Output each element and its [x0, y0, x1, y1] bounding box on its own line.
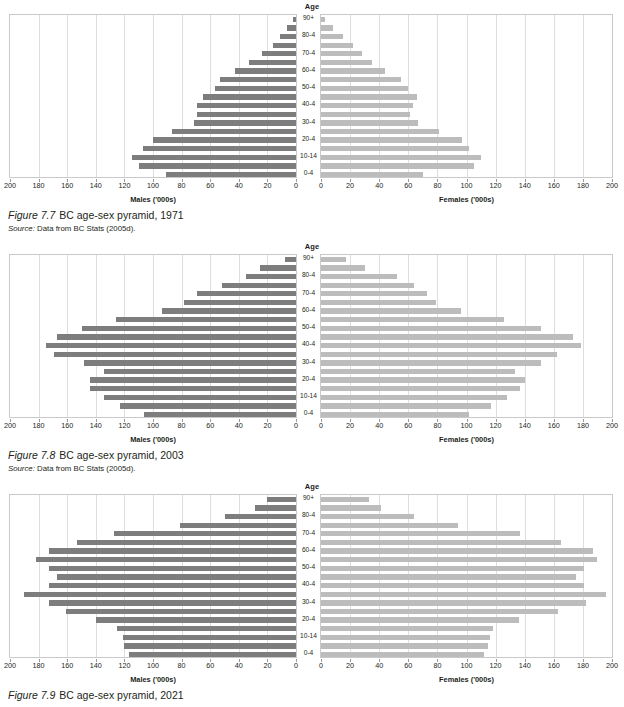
- age-group-label: 0-4: [297, 410, 320, 417]
- figures-page: Age90+80-470-460-450-440-430-420-410-140…: [0, 0, 624, 707]
- axis-tick-label: 120: [118, 422, 130, 429]
- age-group-label: 30-4: [297, 119, 320, 126]
- male-bar: [139, 163, 296, 168]
- bar-row: [321, 24, 612, 33]
- bar-row: [321, 101, 612, 110]
- bar-row: [321, 58, 612, 67]
- bar-row: [10, 75, 296, 84]
- bar-row: [321, 290, 612, 299]
- bar-row: [321, 410, 612, 418]
- figure-source-lead: Source:: [8, 224, 37, 233]
- male-axis-title: Males ('000s): [9, 195, 297, 204]
- axis-tick-label: 40: [375, 422, 383, 429]
- figure-number: Figure 7.8: [8, 449, 55, 461]
- axis-tick-label: 80: [178, 422, 186, 429]
- male-bar: [54, 352, 296, 357]
- bar-row: [10, 376, 296, 385]
- female-bar: [321, 574, 576, 579]
- bar-row: [10, 93, 296, 102]
- bar-row: [10, 633, 296, 642]
- female-bar: [321, 377, 525, 382]
- figure-caption: Figure 7.9BC age-sex pyramid, 2021: [8, 689, 508, 702]
- age-group-labels: 90+80-470-460-450-440-430-420-410-140-4: [297, 14, 320, 178]
- bar-row: [321, 624, 612, 633]
- female-panel: [320, 494, 613, 658]
- female-bar: [321, 86, 408, 91]
- axis-tick-label: 60: [206, 182, 214, 189]
- bar-row: [321, 376, 612, 385]
- female-bar: [321, 412, 469, 417]
- male-bar: [96, 617, 296, 622]
- bar-row: [321, 359, 612, 368]
- age-group-label: 20-4: [297, 616, 320, 623]
- female-axis: 020406080100120140160180200: [320, 662, 613, 674]
- axis-tick-label: 120: [118, 662, 130, 669]
- bar-row: [10, 616, 296, 625]
- male-axis: 200180160140120100806040200: [9, 662, 297, 674]
- bar-row: [10, 624, 296, 633]
- bar-row: [10, 530, 296, 539]
- female-bars: [321, 255, 612, 417]
- bar-row: [321, 581, 612, 590]
- male-bar: [82, 326, 297, 331]
- bar-row: [321, 504, 612, 513]
- male-bar: [143, 146, 296, 151]
- male-panel: [9, 494, 297, 658]
- axis-tick-label: 100: [461, 182, 473, 189]
- bar-row: [321, 650, 612, 658]
- bar-row: [321, 324, 612, 333]
- female-bar: [321, 77, 401, 82]
- male-bar: [197, 291, 296, 296]
- axis-tick-label: 40: [235, 422, 243, 429]
- figure-source-lead: Source:: [8, 464, 37, 473]
- bar-row: [10, 153, 296, 162]
- age-group-label: 10-14: [297, 633, 320, 640]
- female-bar: [321, 155, 481, 160]
- age-group-label: 40-4: [297, 581, 320, 588]
- bar-row: [10, 58, 296, 67]
- male-axis: 200180160140120100806040200: [9, 182, 297, 194]
- figure-title: BC age-sex pyramid, 1971: [59, 209, 183, 221]
- bar-row: [10, 255, 296, 264]
- female-bar: [321, 617, 519, 622]
- bar-row: [321, 538, 612, 547]
- male-bars: [10, 15, 296, 177]
- age-group-label: 50-4: [297, 84, 320, 91]
- age-group-label: 10-14: [297, 153, 320, 160]
- female-bar: [321, 300, 436, 305]
- figure-caption-line: Figure 7.9BC age-sex pyramid, 2021: [8, 689, 508, 702]
- female-bar: [321, 557, 597, 562]
- male-bar: [180, 523, 296, 528]
- bar-row: [10, 119, 296, 128]
- figure-number: Figure 7.9: [8, 689, 55, 701]
- bar-row: [321, 521, 612, 530]
- bar-row: [321, 307, 612, 316]
- bar-row: [321, 119, 612, 128]
- male-bar: [246, 274, 296, 279]
- female-bar: [321, 583, 584, 588]
- female-bar: [321, 369, 515, 374]
- axis-tick-label: 0: [319, 182, 323, 189]
- female-axis-title: Females ('000s): [320, 195, 613, 204]
- female-bar: [321, 334, 573, 339]
- male-bar: [132, 155, 296, 160]
- female-axis-title: Females ('000s): [320, 675, 613, 684]
- axis-tick-label: 20: [346, 182, 354, 189]
- female-bar: [321, 94, 417, 99]
- axis-tick-label: 140: [90, 662, 102, 669]
- bar-row: [10, 32, 296, 41]
- axis-tick-label: 180: [577, 422, 589, 429]
- male-bar: [104, 395, 296, 400]
- axis-tick-label: 20: [263, 422, 271, 429]
- bar-row: [321, 599, 612, 608]
- female-bar: [321, 257, 346, 262]
- female-bar: [321, 652, 484, 657]
- male-bar: [49, 548, 296, 553]
- female-bar: [321, 635, 490, 640]
- axis-tick-label: 120: [490, 182, 502, 189]
- axis-tick-label: 120: [118, 182, 130, 189]
- axis-tick-label: 100: [147, 422, 159, 429]
- bar-row: [10, 127, 296, 136]
- bar-row: [10, 162, 296, 171]
- female-bar: [321, 274, 397, 279]
